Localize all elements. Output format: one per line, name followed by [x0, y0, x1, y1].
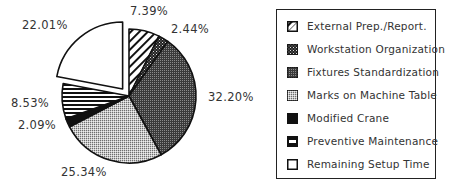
- legend-label: Fixtures Standardization: [307, 66, 439, 78]
- legend-item-marks: Marks on Machine Table: [287, 88, 437, 102]
- slice-label-preventive: 8.53%: [11, 96, 49, 110]
- dense-dots-swatch-icon: [287, 44, 298, 55]
- horizontal-stripe-swatch-icon: [287, 136, 298, 147]
- slice-label-workstation: 2.44%: [171, 22, 209, 36]
- slice-label-remaining: 22.01%: [22, 18, 68, 32]
- legend-label: External Prep./Report.: [307, 20, 427, 32]
- legend-item-remaining: Remaining Setup Time: [287, 157, 430, 171]
- pie-slice-remaining-setup-time: [57, 22, 123, 89]
- legend: External Prep./Report. Workstation Organ…: [276, 9, 436, 179]
- legend-item-external: External Prep./Report.: [287, 19, 427, 33]
- solid-black-swatch-icon: [287, 113, 298, 124]
- legend-item-fixtures: Fixtures Standardization: [287, 65, 439, 79]
- dark-checker-swatch-icon: [287, 67, 298, 78]
- legend-label: Remaining Setup Time: [307, 158, 430, 170]
- diagonal-stripe-swatch-icon: [287, 21, 298, 32]
- legend-item-preventive: Preventive Maintenance: [287, 134, 438, 148]
- legend-item-crane: Modified Crane: [287, 111, 389, 125]
- legend-item-workstation: Workstation Organization: [287, 42, 445, 56]
- legend-label: Preventive Maintenance: [307, 135, 438, 147]
- light-checker-swatch-icon: [287, 90, 298, 101]
- white-swatch-icon: [287, 159, 298, 170]
- slice-label-crane: 2.09%: [18, 118, 56, 132]
- legend-label: Marks on Machine Table: [307, 89, 437, 101]
- legend-label: Workstation Organization: [307, 43, 445, 55]
- legend-label: Modified Crane: [307, 112, 389, 124]
- slice-label-external: 7.39%: [130, 4, 168, 18]
- slice-label-marks: 25.34%: [61, 165, 107, 179]
- slice-label-fixtures: 32.20%: [208, 90, 254, 104]
